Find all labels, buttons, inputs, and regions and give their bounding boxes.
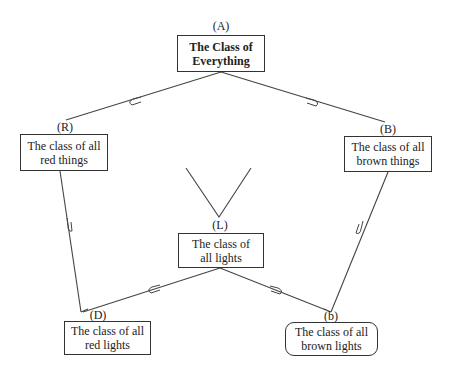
node-d-box: The class of all red lights — [64, 321, 151, 355]
subset-mark-b-b — [356, 221, 363, 234]
node-a-line1: The Class of — [189, 40, 252, 54]
node-a-label: (A) — [206, 20, 236, 32]
superset-mark-a-b — [306, 98, 318, 106]
edge-a-b — [221, 72, 385, 122]
node-d-line2: red lights — [71, 338, 144, 352]
node-b-label: (B) — [373, 123, 403, 135]
node-b-box: The class of all brown things — [344, 136, 432, 172]
node-r-line2: red things — [28, 153, 101, 167]
node-b-lower-label: (b) — [316, 310, 346, 322]
node-b-line2: brown things — [352, 154, 425, 168]
node-b-lower-box: The class of all brown lights — [285, 322, 378, 356]
node-r-label: (R) — [50, 121, 80, 133]
node-r-box: The class of all red things — [20, 134, 108, 171]
node-l-line1: The class of — [192, 237, 250, 251]
edge-l-b — [220, 268, 326, 310]
node-d-line1: The class of all — [71, 324, 144, 338]
node-l-line2: all lights — [192, 251, 250, 265]
edge-b-b — [331, 172, 388, 312]
node-l-label: (L) — [205, 219, 235, 231]
node-b-lower-line2: brown lights — [295, 339, 368, 353]
node-d-label: (D) — [83, 309, 113, 321]
subset-mark-r-d — [67, 218, 72, 231]
edge-l-d — [83, 268, 220, 312]
edge-r-d — [60, 171, 81, 312]
node-a-line2: Everything — [189, 54, 252, 68]
node-a-box: The Class of Everything — [177, 35, 265, 72]
edge-a-r — [66, 72, 221, 120]
node-b-lower-line1: The class of all — [295, 325, 368, 339]
v-mark — [186, 168, 251, 217]
node-b-line1: The class of all — [352, 140, 425, 154]
subset-mark-a-r — [130, 97, 141, 105]
node-l-box: The class of all lights — [178, 233, 264, 268]
node-r-line1: The class of all — [28, 139, 101, 153]
